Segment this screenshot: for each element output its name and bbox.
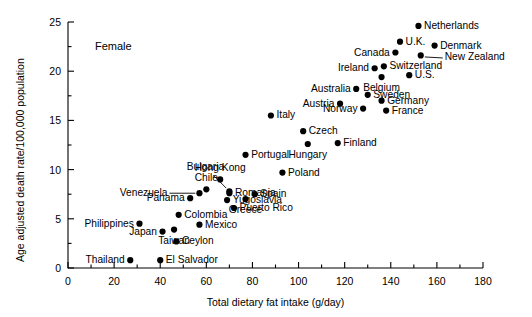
point-label: New Zealand bbox=[445, 52, 505, 62]
scatter-plot-figure: 0204060801001201401601800510152025 Total… bbox=[0, 0, 532, 317]
data-point bbox=[127, 257, 133, 263]
point-label: Thailand bbox=[86, 255, 125, 265]
x-tick-label: 0 bbox=[65, 276, 71, 287]
data-point bbox=[353, 86, 359, 92]
data-point bbox=[372, 65, 378, 71]
point-label: Denmark bbox=[440, 41, 481, 51]
point-label: Canada bbox=[354, 47, 390, 57]
x-tick-label: 80 bbox=[247, 276, 259, 287]
data-point bbox=[305, 141, 311, 147]
point-label: Philippines bbox=[85, 219, 134, 229]
leader-line bbox=[425, 57, 443, 58]
data-point bbox=[335, 140, 341, 146]
data-point bbox=[392, 49, 398, 55]
data-point bbox=[203, 186, 209, 192]
x-tick-label: 60 bbox=[200, 276, 212, 287]
point-label: Netherlands bbox=[424, 21, 479, 31]
x-axis-title: Total dietary fat intake (g/day) bbox=[207, 296, 345, 308]
data-point bbox=[226, 190, 232, 196]
data-point bbox=[157, 257, 163, 263]
y-tick-label: 25 bbox=[49, 17, 61, 28]
y-axis-title: Age adjusted death rate/100,000 populati… bbox=[14, 58, 26, 262]
point-label: Poland bbox=[288, 167, 320, 177]
y-tick-label: 15 bbox=[49, 115, 61, 126]
data-point bbox=[268, 112, 274, 118]
data-point bbox=[171, 227, 177, 233]
data-point bbox=[378, 74, 384, 80]
point-label: Ireland bbox=[338, 63, 369, 73]
point-label: Australia bbox=[311, 84, 351, 94]
data-point bbox=[381, 63, 387, 69]
x-tick-label: 20 bbox=[108, 276, 120, 287]
data-point bbox=[383, 107, 389, 113]
data-points-layer bbox=[127, 23, 438, 263]
data-point bbox=[418, 52, 424, 58]
data-point bbox=[224, 197, 230, 203]
point-label: Norway bbox=[323, 103, 358, 113]
x-tick-label: 100 bbox=[290, 276, 308, 287]
data-point bbox=[397, 39, 403, 45]
data-point bbox=[196, 190, 202, 196]
x-tick-label: 140 bbox=[382, 276, 400, 287]
data-point bbox=[196, 222, 202, 228]
y-tick-label: 0 bbox=[55, 263, 61, 274]
data-point bbox=[360, 105, 366, 111]
y-tick-label: 5 bbox=[55, 214, 61, 225]
x-tick-label: 160 bbox=[428, 276, 446, 287]
x-tick-label: 40 bbox=[154, 276, 166, 287]
x-tick-label: 180 bbox=[474, 276, 492, 287]
data-point bbox=[242, 152, 248, 158]
point-label: Chile bbox=[195, 173, 218, 183]
point-label: U.K. bbox=[406, 37, 426, 47]
data-point bbox=[415, 23, 421, 29]
data-point bbox=[217, 176, 223, 182]
series-annotation-female: Female bbox=[95, 40, 132, 52]
point-label: Hungary bbox=[289, 150, 328, 160]
data-point bbox=[279, 169, 285, 175]
data-point bbox=[300, 128, 306, 134]
point-label: Portugal bbox=[251, 150, 289, 160]
point-label: Japan bbox=[129, 226, 157, 236]
x-tick-label: 120 bbox=[336, 276, 354, 287]
point-label: U.S. bbox=[415, 70, 435, 80]
point-label: Ceylon bbox=[182, 236, 214, 246]
data-point bbox=[187, 195, 193, 201]
point-label: Puerto Rico bbox=[240, 203, 293, 213]
point-label: Czech bbox=[309, 126, 338, 136]
point-label: El Salvador bbox=[166, 255, 218, 265]
point-label: Italy bbox=[276, 110, 295, 120]
point-label: France bbox=[392, 105, 424, 115]
data-point bbox=[406, 72, 412, 78]
point-label: Mexico bbox=[205, 220, 237, 230]
point-label: Bulgaria bbox=[187, 162, 224, 172]
point-label: Finland bbox=[343, 138, 376, 148]
y-tick-label: 20 bbox=[49, 66, 61, 77]
data-point bbox=[176, 212, 182, 218]
data-point bbox=[431, 43, 437, 49]
point-label: Panama bbox=[147, 193, 185, 203]
y-tick-label: 10 bbox=[49, 164, 61, 175]
